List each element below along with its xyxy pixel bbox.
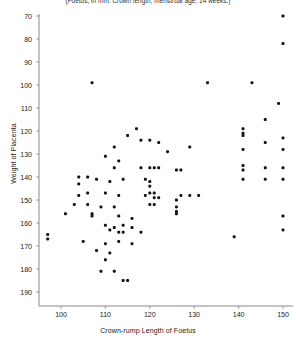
x-tick-label: 150 <box>272 310 294 319</box>
x-tick-label: 100 <box>50 310 72 319</box>
data-point <box>139 231 142 234</box>
data-point <box>157 196 160 199</box>
data-point <box>77 182 80 185</box>
y-tick-label: 160 <box>10 219 32 228</box>
data-point <box>99 205 102 208</box>
data-point <box>282 148 285 151</box>
data-point <box>126 134 129 137</box>
data-point <box>242 164 245 167</box>
data-point <box>153 196 156 199</box>
y-tick-label: 130 <box>10 150 32 159</box>
data-point <box>139 139 142 142</box>
data-point <box>117 215 120 218</box>
data-point <box>242 169 245 172</box>
data-point <box>197 194 200 197</box>
data-point <box>282 178 285 181</box>
data-point <box>104 192 107 195</box>
data-point <box>95 249 98 252</box>
data-point <box>157 141 160 144</box>
data-point <box>264 141 267 144</box>
data-point <box>282 215 285 218</box>
data-point <box>175 205 178 208</box>
x-axis-title: Crown-rump Length of Foetus <box>0 327 296 334</box>
data-point <box>86 203 89 206</box>
data-point <box>179 194 182 197</box>
data-point <box>122 178 125 181</box>
data-point <box>108 180 111 183</box>
data-point <box>264 178 267 181</box>
data-point <box>64 212 67 215</box>
data-point <box>113 166 116 169</box>
data-point <box>113 146 116 149</box>
data-point <box>95 178 98 181</box>
data-point <box>250 81 253 84</box>
y-tick-label: 70 <box>10 12 32 21</box>
data-point <box>77 194 80 197</box>
data-point <box>113 226 116 229</box>
data-point <box>135 127 138 130</box>
data-point <box>242 134 245 137</box>
data-point <box>131 226 134 229</box>
plot-canvas <box>0 0 296 345</box>
data-point <box>188 146 191 149</box>
data-point <box>233 235 236 238</box>
data-point <box>131 242 134 245</box>
data-point <box>104 224 107 227</box>
data-point <box>139 166 142 169</box>
data-point <box>264 166 267 169</box>
data-point <box>73 203 76 206</box>
data-point <box>166 150 169 153</box>
data-point <box>122 224 125 227</box>
data-point <box>264 118 267 121</box>
data-point <box>86 176 89 179</box>
data-point <box>179 169 182 172</box>
data-point <box>153 166 156 169</box>
data-point <box>46 238 49 241</box>
data-point <box>104 242 107 245</box>
data-point <box>242 178 245 181</box>
data-point <box>175 199 178 202</box>
data-point <box>126 279 129 282</box>
data-point <box>108 228 111 231</box>
data-point <box>148 180 151 183</box>
data-point <box>99 270 102 273</box>
y-tick-label: 140 <box>10 173 32 182</box>
x-tick-label: 110 <box>94 310 116 319</box>
data-point <box>104 258 107 261</box>
data-point <box>122 279 125 282</box>
data-point <box>242 127 245 130</box>
y-tick-label: 190 <box>10 288 32 297</box>
data-point <box>148 166 151 169</box>
data-point <box>117 194 120 197</box>
data-point <box>46 233 49 236</box>
data-point <box>104 155 107 158</box>
x-tick-label: 140 <box>228 310 250 319</box>
data-point <box>148 192 151 195</box>
scatter-plot-figure: (Foetus, in mm. Crown length; menstrual … <box>0 0 296 345</box>
y-tick-label: 80 <box>10 35 32 44</box>
data-point <box>86 192 89 195</box>
data-point <box>206 81 209 84</box>
data-point <box>282 42 285 45</box>
data-point <box>131 217 134 220</box>
data-point <box>77 176 80 179</box>
data-point <box>157 166 160 169</box>
y-tick-label: 120 <box>10 127 32 136</box>
y-tick-label: 170 <box>10 242 32 251</box>
data-point <box>153 203 156 206</box>
data-point <box>175 169 178 172</box>
y-tick-label: 110 <box>10 104 32 113</box>
data-point <box>122 231 125 234</box>
data-point <box>148 139 151 142</box>
data-point <box>117 231 120 234</box>
data-point <box>113 205 116 208</box>
data-point <box>148 203 151 206</box>
data-point <box>282 136 285 139</box>
data-point <box>188 194 191 197</box>
data-point <box>282 15 285 18</box>
data-point <box>108 251 111 254</box>
y-tick-label: 150 <box>10 196 32 205</box>
data-point <box>242 148 245 151</box>
data-point <box>282 166 285 169</box>
y-tick-label: 100 <box>10 81 32 90</box>
